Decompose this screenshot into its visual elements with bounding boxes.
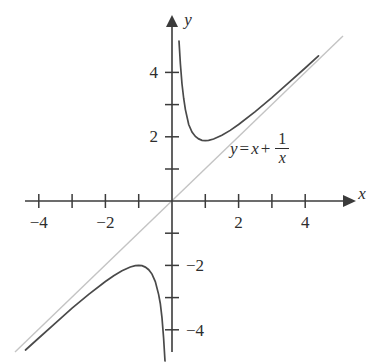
fraction-denominator: x bbox=[276, 149, 289, 166]
equation-annotation: y = x + 1 x bbox=[230, 131, 289, 166]
equation-term-x: x bbox=[251, 140, 259, 157]
equation-lhs: y bbox=[230, 140, 238, 157]
fraction-numerator: 1 bbox=[275, 131, 289, 148]
x-axis-label: x bbox=[357, 184, 366, 203]
graph-figure: −4 −2 2 4 4 2 −2 −4 x y y = x + 1 x bbox=[0, 0, 380, 363]
y-tick-label--2: −2 bbox=[186, 256, 204, 275]
x-tick-label-2: 2 bbox=[234, 213, 243, 232]
axis-labels-layer: −4 −2 2 4 4 2 −2 −4 x y bbox=[0, 0, 380, 363]
x-tick-label--2: −2 bbox=[96, 213, 114, 232]
y-tick-label-4: 4 bbox=[150, 63, 159, 82]
x-tick-label--4: −4 bbox=[30, 213, 49, 232]
y-tick-label--4: −4 bbox=[186, 321, 205, 340]
equation-equals-sign: = bbox=[240, 140, 250, 157]
x-tick-label-4: 4 bbox=[301, 213, 310, 232]
equation-plus-sign: + bbox=[261, 140, 271, 157]
y-axis-label: y bbox=[182, 10, 192, 29]
equation-fraction: 1 x bbox=[275, 131, 289, 166]
y-tick-label-2: 2 bbox=[150, 127, 159, 146]
